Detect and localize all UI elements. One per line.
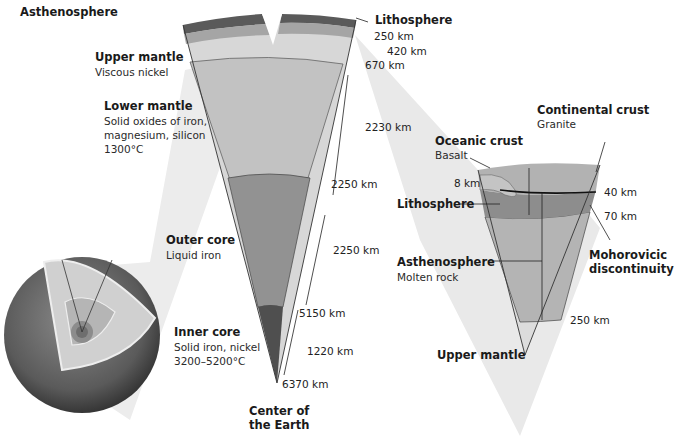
desc-inner-core-2: 3200–5200°C [174, 355, 245, 368]
desc-asthenosphere-detail: Molten rock [397, 271, 458, 284]
label-asthenosphere: Asthenosphere [20, 6, 118, 19]
desc-lower-mantle-3: 1300°C [104, 143, 143, 156]
depth-5150km: 5150 km [299, 307, 345, 319]
label-moho-2: discontinuity [589, 263, 674, 276]
depth-670km: 670 km [365, 59, 405, 71]
depth-420km: 420 km [387, 45, 427, 57]
depth-250km: 250 km [374, 30, 414, 42]
label-outer-core: Outer core [166, 234, 235, 247]
label-asthenosphere-detail: Asthenosphere [397, 256, 495, 269]
label-center-2: the Earth [249, 419, 309, 432]
earth-globe [4, 257, 160, 413]
desc-outer-core: Liquid iron [166, 249, 221, 262]
depth-70km: 70 km [604, 210, 637, 222]
depth-6370km: 6370 km [282, 378, 328, 390]
desc-oceanic-crust: Basalt [435, 149, 468, 162]
label-inner-core: Inner core [174, 326, 240, 339]
label-moho-1: Mohorovicic [589, 249, 667, 262]
label-oceanic-crust: Oceanic crust [435, 135, 523, 148]
label-upper-mantle: Upper mantle [95, 51, 183, 64]
depth-8km: 8 km [454, 177, 480, 189]
label-continental-crust: Continental crust [537, 104, 649, 117]
depth-2230km: 2230 km [365, 121, 411, 133]
depth-2250km-boundary: 2250 km [331, 178, 377, 190]
desc-continental-crust: Granite [537, 118, 576, 131]
label-upper-mantle-detail: Upper mantle [437, 349, 525, 362]
depth-40km: 40 km [604, 186, 637, 198]
label-lithosphere-top: Lithosphere [375, 14, 452, 27]
depth-2250km-span: 2250 km [333, 244, 379, 256]
depth-250km-detail: 250 km [570, 314, 610, 326]
label-center-1: Center of [249, 405, 309, 418]
desc-lower-mantle-1: Solid oxides of iron, [104, 115, 207, 128]
desc-upper-mantle: Viscous nickel [95, 66, 168, 79]
label-lower-mantle: Lower mantle [104, 100, 193, 113]
desc-inner-core-1: Solid iron, nickel [174, 341, 260, 354]
label-lithosphere-detail: Lithosphere [397, 198, 474, 211]
depth-1220km: 1220 km [307, 345, 353, 357]
desc-lower-mantle-2: magnesium, silicon [104, 129, 205, 142]
